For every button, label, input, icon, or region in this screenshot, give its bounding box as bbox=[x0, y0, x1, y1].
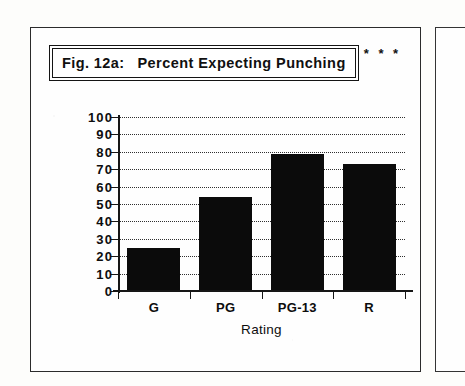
bar-slot bbox=[190, 117, 262, 291]
x-axis-tick-label: PG bbox=[190, 300, 262, 315]
y-axis-tick-label: 70 bbox=[96, 162, 113, 177]
x-axis-tick bbox=[405, 290, 406, 299]
y-axis-tick-label: 0 bbox=[105, 284, 113, 299]
bar-slot bbox=[333, 117, 405, 291]
x-axis-tick-label: G bbox=[118, 300, 190, 315]
y-axis-tick-label: 80 bbox=[96, 144, 113, 159]
x-axis-tick-labels: GPGPG-13R bbox=[118, 300, 405, 315]
y-axis-line bbox=[118, 115, 120, 293]
x-axis-title: Rating bbox=[118, 322, 405, 337]
y-axis-tick-labels: 0102030405060708090100 bbox=[69, 117, 113, 291]
y-axis-tick-label: 10 bbox=[96, 266, 113, 281]
bar-slot bbox=[262, 117, 334, 291]
bar-pg bbox=[199, 197, 252, 291]
plot-area bbox=[118, 117, 405, 291]
y-axis-tick-label: 60 bbox=[96, 179, 113, 194]
y-axis-tick-label: 90 bbox=[96, 127, 113, 142]
bar-pg-13 bbox=[271, 154, 324, 291]
bar-series bbox=[118, 117, 405, 291]
x-axis-tick-label: PG-13 bbox=[262, 300, 334, 315]
x-axis-tick bbox=[262, 290, 263, 299]
x-axis-tick bbox=[118, 290, 119, 299]
x-axis-line bbox=[113, 290, 413, 292]
bar-chart: 0102030405060708090100 GPGPG-13R Rating bbox=[31, 28, 420, 371]
x-axis-tick bbox=[190, 290, 191, 299]
y-axis-tick-label: 30 bbox=[96, 231, 113, 246]
y-axis-tick-label: 100 bbox=[88, 110, 113, 125]
adjacent-figure-frame-partial bbox=[435, 27, 465, 372]
bar-slot bbox=[118, 117, 190, 291]
y-axis-tick-label: 50 bbox=[96, 197, 113, 212]
y-axis-tick-label: 40 bbox=[96, 214, 113, 229]
x-axis-tick bbox=[333, 290, 334, 299]
x-axis-tick-label: R bbox=[333, 300, 405, 315]
bar-r bbox=[343, 164, 396, 291]
y-axis-tick-label: 20 bbox=[96, 249, 113, 264]
bar-g bbox=[127, 248, 180, 292]
figure-frame: Fig. 12a: Percent Expecting Punching * *… bbox=[30, 27, 421, 372]
